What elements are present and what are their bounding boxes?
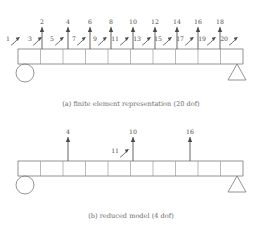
dof-label: 9 (93, 35, 97, 42)
dof-label: 3 (28, 35, 32, 42)
dof-label: 20 (220, 35, 228, 42)
translation-arrow-head (131, 27, 135, 32)
panel-b-dof-labels: 4101611 (66, 128, 194, 155)
dof-label: 7 (72, 35, 76, 42)
figure-canvas: 2468101214161813579111315171920 (a) fini… (0, 0, 262, 233)
roller-support-left (16, 64, 34, 82)
translation-arrow-head (109, 27, 113, 32)
panel-a-translation-arrows (40, 27, 222, 49)
translation-arrow-head (196, 27, 200, 32)
dof-label: 4 (66, 18, 70, 25)
translation-arrow-head (188, 137, 192, 142)
dof-label: 5 (50, 35, 54, 42)
panel-b-beam (18, 161, 243, 176)
dof-label: 19 (198, 35, 206, 42)
dof-label: 6 (88, 18, 92, 25)
dof-label: 14 (173, 18, 181, 25)
dof-label: 13 (133, 35, 141, 42)
dof-label: 11 (111, 35, 119, 42)
dof-label: 1 (6, 35, 10, 42)
dof-label: 15 (154, 35, 162, 42)
translation-arrow-head (40, 27, 44, 32)
dof-label: 10 (129, 18, 137, 25)
pinned-support-right (228, 176, 246, 192)
panel-a-beam (18, 49, 243, 64)
translation-arrow-head (88, 27, 92, 32)
dof-label: 17 (176, 35, 184, 42)
dof-label: 11 (111, 147, 119, 154)
translation-arrow-head (175, 27, 179, 32)
roller-support-left (16, 176, 34, 194)
dof-label: 16 (194, 18, 202, 25)
translation-arrow-head (153, 27, 157, 32)
dof-label: 10 (129, 128, 137, 135)
panel-b-translation-arrows (66, 137, 192, 161)
translation-arrow-head (66, 137, 70, 142)
panel-b-supports (16, 176, 246, 194)
panel-b-rotation-arrows (121, 149, 129, 157)
translation-arrow-head (66, 27, 70, 32)
translation-arrow-head (218, 27, 222, 32)
dof-label: 12 (151, 18, 159, 25)
dof-label: 18 (216, 18, 224, 25)
pinned-support-right (228, 64, 246, 80)
dof-label: 4 (66, 128, 70, 135)
translation-arrow-head (131, 137, 135, 142)
panel-a-supports (16, 64, 246, 82)
dof-label: 8 (109, 18, 113, 25)
panel-b-caption: (b) reduced model (4 dof) (88, 212, 174, 220)
dof-label: 2 (40, 18, 44, 25)
beam-dof-figure: 2468101214161813579111315171920 (a) fini… (0, 0, 262, 233)
panel-a-caption: (a) finite element representation (20 do… (62, 100, 200, 108)
dof-label: 16 (186, 128, 194, 135)
panel-a: 2468101214161813579111315171920 (a) fini… (6, 18, 246, 109)
panel-b: 4101611 (b) reduced model (4 dof) (16, 128, 246, 221)
